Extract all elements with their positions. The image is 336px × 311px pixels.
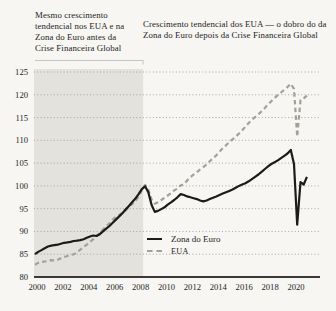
figure: Mesmo crescimento tendencial nos EUA e n… bbox=[0, 0, 336, 311]
y-axis-tick-label: 110 bbox=[15, 135, 28, 145]
x-axis-tick-label: 2004 bbox=[80, 282, 98, 292]
y-axis-tick-label: 100 bbox=[15, 181, 28, 191]
solid-line-swatch bbox=[147, 238, 162, 240]
x-axis-tick-label: 2002 bbox=[54, 282, 71, 292]
x-axis-tick-label: 2016 bbox=[236, 282, 254, 292]
x-axis-tick-label: 2010 bbox=[158, 282, 175, 292]
legend-label: Zona do Euro bbox=[171, 234, 221, 244]
dashed-line-swatch bbox=[147, 250, 162, 252]
legend-label: EUA bbox=[171, 247, 189, 256]
x-axis-tick-label: 2020 bbox=[287, 282, 304, 292]
x-axis-tick-label: 2018 bbox=[262, 282, 279, 292]
x-axis-tick-label: 2014 bbox=[210, 282, 228, 292]
y-axis-tick-label: 115 bbox=[15, 113, 28, 123]
y-axis-tick-label: 105 bbox=[15, 158, 28, 168]
y-axis-tick-label: 80 bbox=[19, 272, 28, 282]
y-axis-tick-label: 120 bbox=[15, 90, 28, 100]
gdp-trend-chart: 8085909510010511011512012520002002200420… bbox=[0, 0, 336, 311]
y-axis-tick-label: 95 bbox=[19, 204, 28, 214]
x-axis-tick-label: 2000 bbox=[28, 282, 45, 292]
chart-legend: Zona do Euro EUA bbox=[147, 233, 221, 257]
legend-item-zona-do-euro: Zona do Euro bbox=[147, 233, 221, 245]
x-axis-tick-label: 2006 bbox=[106, 282, 124, 292]
legend-item-eua: EUA bbox=[147, 245, 221, 257]
x-axis-tick-label: 2012 bbox=[184, 282, 201, 292]
y-axis-tick-label: 90 bbox=[19, 226, 28, 236]
y-axis-tick-label: 125 bbox=[15, 67, 28, 77]
x-axis-tick-label: 2008 bbox=[132, 282, 149, 292]
y-axis-tick-label: 85 bbox=[19, 249, 28, 259]
